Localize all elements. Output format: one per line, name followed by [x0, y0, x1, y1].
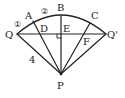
length-label-PQ: 4 — [29, 54, 35, 65]
annotation-circle-1: ① — [14, 20, 21, 29]
label-Q: Q — [5, 29, 13, 40]
annotation-circle-2: ② — [41, 7, 48, 16]
label-B: B — [57, 2, 64, 13]
geometry-diagram: P Q Q' A B C D E F ① ② 4 — [0, 0, 125, 98]
segment-PQ — [17, 34, 61, 74]
label-D: D — [40, 23, 48, 34]
label-P: P — [57, 80, 64, 91]
label-F: F — [83, 36, 90, 47]
vertex-P-dot — [60, 73, 63, 76]
label-C: C — [91, 10, 99, 21]
label-A: A — [24, 10, 33, 21]
label-E: E — [63, 23, 70, 34]
label-Q-prime: Q' — [107, 29, 118, 40]
